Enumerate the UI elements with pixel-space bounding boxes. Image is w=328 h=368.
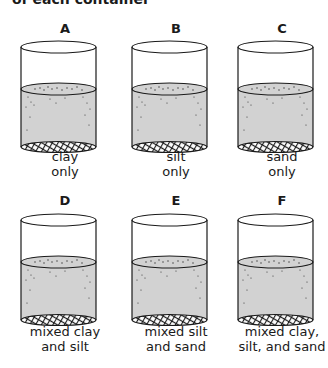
container-description: clay only — [4, 149, 126, 179]
container-e: E mixed silt and sand — [121, 193, 231, 358]
beaker-icon — [121, 35, 231, 160]
container-a: A clay only — [10, 21, 120, 186]
container-description: silt only — [115, 149, 237, 179]
container-f: F mixed clay, silt, and sand — [227, 193, 328, 358]
beaker-icon — [227, 35, 328, 160]
container-description: mixed silt and sand — [115, 324, 237, 354]
container-label: D — [10, 193, 120, 208]
container-label: C — [227, 21, 328, 36]
beaker-icon — [10, 35, 120, 160]
beaker-icon — [121, 208, 231, 333]
container-c: C sand only — [227, 21, 328, 186]
container-d: D mixed clay and silt — [10, 193, 120, 358]
beaker-icon — [10, 208, 120, 333]
container-description: mixed clay and silt — [4, 324, 126, 354]
container-description: mixed clay, silt, and sand — [221, 324, 328, 354]
container-label: A — [10, 21, 120, 36]
container-b: B silt only — [121, 21, 231, 186]
container-label: F — [227, 193, 328, 208]
container-label: B — [121, 21, 231, 36]
container-description: sand only — [221, 149, 328, 179]
question-caption: of each container — [12, 0, 150, 7]
container-label: E — [121, 193, 231, 208]
beaker-icon — [227, 208, 328, 333]
